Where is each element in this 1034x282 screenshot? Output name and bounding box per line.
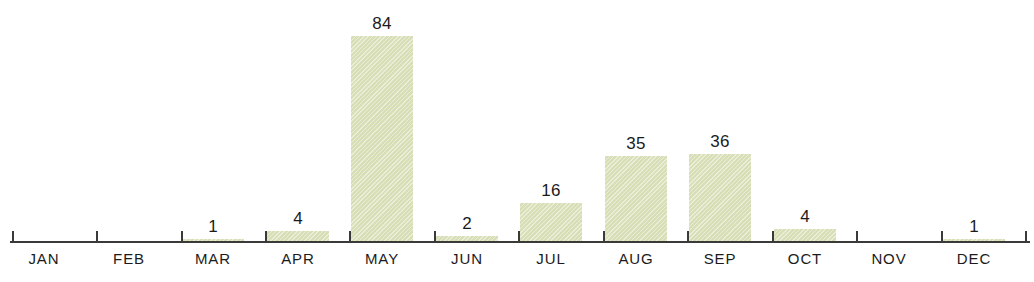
x-axis-tick [12,231,14,242]
x-axis-tick [518,231,520,242]
value-label-jun: 2 [436,215,498,232]
x-axis-label-oct: OCT [763,250,847,268]
value-label-aug: 35 [605,135,667,152]
x-axis-tick [856,231,858,242]
bar-sep[interactable] [689,154,751,242]
x-axis-tick [181,231,183,242]
x-axis-label-apr: APR [256,250,340,268]
bar-may[interactable] [351,36,413,242]
value-label-dec: 1 [943,218,1005,235]
x-axis-label-jun: JUN [425,250,509,268]
x-axis-tick [941,231,943,242]
value-label-jul: 16 [520,182,582,199]
x-axis-line [10,241,1030,243]
x-axis-label-may: MAY [340,250,424,268]
x-axis-tick [349,231,351,242]
bar-jul[interactable] [520,203,582,242]
x-axis-label-dec: DEC [932,250,1016,268]
value-label-oct: 4 [774,208,836,225]
x-axis-label-jan: JAN [2,250,86,268]
x-axis-label-mar: MAR [171,250,255,268]
plot-area: 1 4 84 2 16 35 36 4 1 [0,0,1034,242]
bar-aug[interactable] [605,156,667,242]
x-axis-label-aug: AUG [594,250,678,268]
value-label-apr: 4 [267,210,329,227]
bar-chart: 1 4 84 2 16 35 36 4 1 JAN FEB MAR APR MA… [0,0,1034,282]
x-axis-tick [772,231,774,242]
x-axis-tick [96,231,98,242]
x-axis-label-nov: NOV [847,250,931,268]
x-axis-tick [265,231,267,242]
x-axis-label-jul: JUL [509,250,593,268]
x-axis-tick [687,231,689,242]
x-axis-tick [1025,231,1027,242]
x-axis-label-sep: SEP [678,250,762,268]
value-label-may: 84 [351,15,413,32]
x-axis-label-feb: FEB [87,250,171,268]
value-label-mar: 1 [182,218,244,235]
value-label-sep: 36 [689,133,751,150]
x-axis-tick [434,231,436,242]
x-axis-tick [603,231,605,242]
